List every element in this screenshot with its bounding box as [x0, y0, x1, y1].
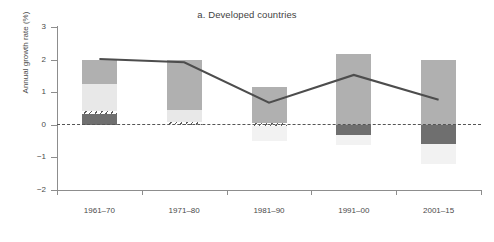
y-tick-mark	[51, 60, 57, 61]
x-tick-mark	[57, 190, 58, 195]
x-tick-mark	[396, 190, 397, 195]
y-tick-label: 0	[20, 121, 46, 129]
zero-reference-line	[57, 124, 481, 125]
x-tick-label: 1971–80	[139, 206, 229, 215]
bar-segment	[167, 60, 202, 111]
bar-segment	[252, 87, 287, 124]
bar-segment	[336, 54, 371, 125]
y-tick-label: −2	[20, 186, 46, 194]
y-tick-label: −1	[20, 153, 46, 161]
x-tick-mark	[227, 190, 228, 195]
x-tick-mark	[481, 190, 482, 195]
bar-segment	[336, 125, 371, 135]
bar-segment	[167, 110, 202, 121]
x-axis-line	[57, 190, 481, 191]
x-tick-mark	[311, 190, 312, 195]
bar-segment	[82, 60, 117, 84]
y-axis-line	[57, 26, 58, 191]
chart-title: a. Developed countries	[0, 9, 494, 20]
y-tick-label: 2	[20, 56, 46, 64]
bar-segment	[82, 84, 117, 111]
bar-segment	[252, 126, 287, 141]
y-tick-mark	[51, 157, 57, 158]
bar-segment	[82, 111, 117, 114]
x-tick-label: 1961–70	[54, 206, 144, 215]
chart-figure: a. Developed countries Annual growth rat…	[0, 0, 494, 242]
x-tick-label: 2001–15	[394, 206, 484, 215]
bar-segment	[336, 135, 371, 146]
bar-segment	[421, 125, 456, 145]
y-tick-mark	[51, 92, 57, 93]
x-tick-label: 1991–00	[309, 206, 399, 215]
x-tick-mark	[142, 190, 143, 195]
y-tick-mark	[51, 27, 57, 28]
bar-segment	[421, 60, 456, 125]
bar-segment	[421, 144, 456, 164]
y-tick-label: 1	[20, 88, 46, 96]
x-tick-label: 1981–90	[224, 206, 314, 215]
y-tick-label: 3	[20, 23, 46, 31]
